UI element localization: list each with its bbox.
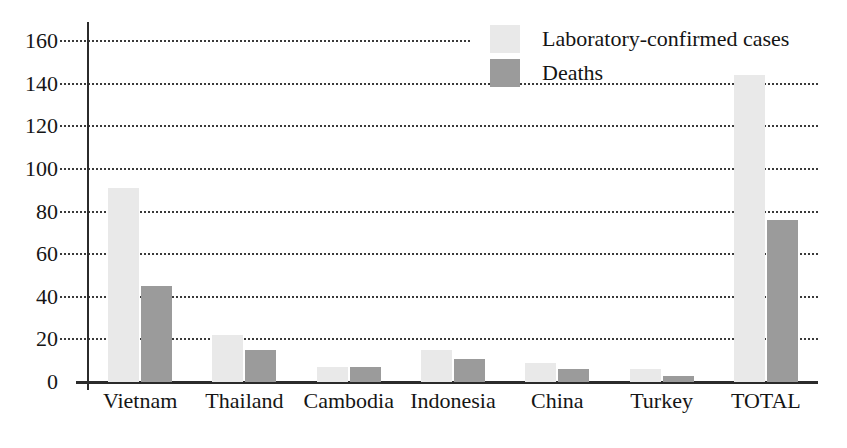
bar-total-deaths [767,220,798,382]
y-axis-tick-label: 60 [0,243,58,265]
y-axis-tick-label: 80 [0,201,58,223]
y-axis-tick-label: 100 [0,158,58,180]
legend-label: Deaths [542,62,603,84]
legend-label: Laboratory-confirmed cases [542,28,789,50]
y-axis-tick-label: 40 [0,286,58,308]
bar-cambodia-cases [317,367,348,382]
chart-legend: Laboratory-confirmed casesDeaths [490,22,789,90]
bar-thailand-cases [212,335,243,382]
legend-swatch-deaths [490,59,520,87]
legend-item-deaths[interactable]: Deaths [490,56,789,90]
bar-indonesia-deaths [454,359,485,382]
x-axis-label-indonesia: Indonesia [395,390,511,412]
bar-china-cases [525,363,556,382]
y-axis-tick-label: 140 [0,73,58,95]
legend-swatch-cases [490,25,520,53]
y-axis-tick-label: 20 [0,328,58,350]
legend-item-cases[interactable]: Laboratory-confirmed cases [490,22,789,56]
y-axis-tick-label: 0 [0,371,58,393]
x-axis-label-china: China [499,390,615,412]
bar-china-deaths [558,369,589,382]
bar-vietnam-cases [108,188,139,382]
bar-thailand-deaths [245,350,276,382]
y-axis-tick-label: 160 [0,30,58,52]
x-axis-label-thailand: Thailand [186,390,302,412]
bar-vietnam-deaths [141,286,172,382]
bar-indonesia-cases [421,350,452,382]
chart-page: 020406080100120140160 VietnamThailandCam… [0,0,847,448]
x-axis-label-vietnam: Vietnam [82,390,198,412]
x-axis-label-cambodia: Cambodia [291,390,407,412]
y-axis-tick-label: 120 [0,115,58,137]
x-axis-label-turkey: Turkey [603,390,719,412]
x-axis-label-total: TOTAL [708,390,824,412]
bar-cambodia-deaths [350,367,381,382]
bar-turkey-deaths [663,376,694,382]
bar-total-cases [734,75,765,382]
bar-turkey-cases [630,369,661,382]
